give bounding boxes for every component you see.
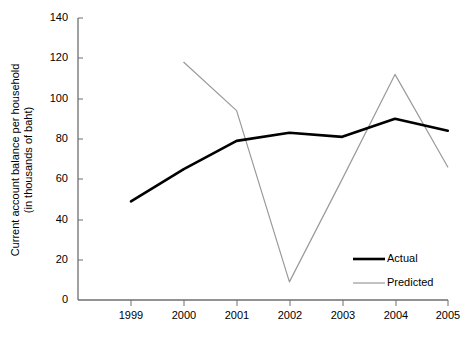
series-line-predicted [184, 62, 448, 282]
x-tick-label-2000: 2000 [158, 309, 210, 321]
x-tick-label-1999: 1999 [105, 309, 157, 321]
legend-label-actual: Actual [387, 252, 418, 264]
series-line-actual [131, 119, 448, 202]
x-tick-label-2004: 2004 [370, 309, 422, 321]
x-tick-label-2005: 2005 [422, 309, 466, 321]
x-tick-label-2002: 2002 [264, 309, 316, 321]
line-chart: Current account balance per household (i… [0, 0, 466, 342]
x-tick-label-2001: 2001 [211, 309, 263, 321]
plot-area [0, 0, 466, 342]
x-tick-label-2003: 2003 [317, 309, 369, 321]
legend-label-predicted: Predicted [387, 276, 433, 288]
